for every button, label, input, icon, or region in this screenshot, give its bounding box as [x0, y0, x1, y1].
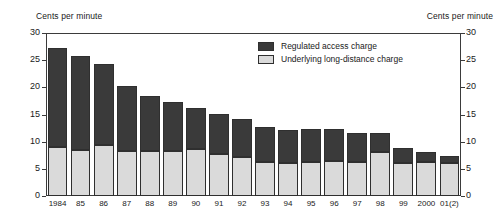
x-tick-label: 99 [392, 199, 415, 208]
y-tick-mark-right [461, 60, 465, 61]
x-tick-label: 94 [277, 199, 300, 208]
bar-group [163, 103, 183, 196]
legend-swatch-dark [258, 42, 274, 51]
y-tick-label-right: 15 [466, 109, 486, 119]
bar-segment-underlying-long-distance-charge [393, 163, 413, 196]
bar-segment-underlying-long-distance-charge [48, 147, 68, 196]
bar-segment-underlying-long-distance-charge [416, 162, 436, 196]
bar-segment-regulated-access-charge [48, 48, 68, 147]
bar-segment-underlying-long-distance-charge [209, 154, 229, 196]
left-axis-title: Cents per minute [36, 11, 102, 21]
x-tick-label: 97 [346, 199, 369, 208]
bar-group [71, 57, 91, 196]
bar-segment-regulated-access-charge [163, 102, 183, 151]
bar-segment-regulated-access-charge [440, 156, 460, 163]
y-tick-label-left: 30 [20, 27, 40, 37]
bar-segment-underlying-long-distance-charge [71, 150, 91, 196]
bar-segment-regulated-access-charge [393, 148, 413, 163]
x-tick-label: 91 [207, 199, 230, 208]
bar-segment-regulated-access-charge [347, 133, 367, 162]
x-tick-label: 86 [92, 199, 115, 208]
bar-group [347, 134, 367, 196]
y-tick-label-left: 0 [20, 190, 40, 200]
y-tick-mark-right [461, 196, 465, 197]
x-tick-label: 95 [300, 199, 323, 208]
bar-group [440, 157, 460, 196]
bar-segment-regulated-access-charge [370, 133, 390, 152]
bar-segment-regulated-access-charge [232, 119, 252, 157]
legend-label: Regulated access charge [281, 41, 377, 51]
bar-segment-underlying-long-distance-charge [255, 162, 275, 196]
bar-segment-underlying-long-distance-charge [370, 152, 390, 196]
bar-group [94, 65, 114, 196]
bar-group [48, 49, 68, 196]
bar-segment-underlying-long-distance-charge [232, 157, 252, 196]
legend-label: Underlying long-distance charge [281, 54, 403, 64]
y-tick-mark-right [461, 115, 465, 116]
bar-segment-underlying-long-distance-charge [301, 162, 321, 196]
y-tick-label-right: 5 [466, 163, 486, 173]
x-tick-label: 87 [115, 199, 138, 208]
bar-group [209, 115, 229, 197]
x-tick-label: 89 [161, 199, 184, 208]
right-axis-title: Cents per minute [427, 11, 493, 21]
x-tick-label: 2000 [415, 199, 438, 208]
bar-segment-underlying-long-distance-charge [186, 149, 206, 196]
x-tick-label: 85 [69, 199, 92, 208]
y-tick-mark-left [42, 196, 46, 197]
bar-segment-regulated-access-charge [301, 129, 321, 162]
bar-segment-regulated-access-charge [209, 114, 229, 154]
bar-segment-regulated-access-charge [140, 96, 160, 151]
bar-segment-underlying-long-distance-charge [440, 163, 460, 196]
bar-segment-underlying-long-distance-charge [117, 151, 137, 196]
bar-group [393, 149, 413, 196]
bar-segment-underlying-long-distance-charge [140, 151, 160, 196]
bar-segment-underlying-long-distance-charge [94, 145, 114, 196]
bar-segment-regulated-access-charge [416, 152, 436, 162]
bar-segment-underlying-long-distance-charge [324, 161, 344, 196]
bar-segment-regulated-access-charge [255, 127, 275, 162]
bar-segment-regulated-access-charge [186, 108, 206, 149]
bar-group [416, 153, 436, 196]
y-tick-label-left: 15 [20, 109, 40, 119]
x-tick-label: 96 [323, 199, 346, 208]
y-tick-mark-right [461, 33, 465, 34]
y-tick-label-left: 10 [20, 136, 40, 146]
bar-segment-regulated-access-charge [117, 86, 137, 151]
x-tick-label: 01(2) [438, 199, 461, 208]
legend-swatch-light [258, 55, 274, 64]
x-tick-label: 90 [184, 199, 207, 208]
bar-group [301, 130, 321, 196]
y-tick-label-right: 30 [466, 27, 486, 37]
bar-segment-regulated-access-charge [94, 64, 114, 145]
x-tick-label: 93 [254, 199, 277, 208]
stacked-bar-chart: Cents per minute Cents per minute 051015… [0, 0, 503, 219]
legend-item: Regulated access charge [258, 41, 403, 51]
bar-group [117, 87, 137, 196]
x-tick-label: 1984 [46, 199, 69, 208]
x-tick-label: 92 [230, 199, 253, 208]
bar-group [232, 120, 252, 196]
y-tick-mark-right [461, 142, 465, 143]
bar-segment-underlying-long-distance-charge [278, 163, 298, 196]
legend-item: Underlying long-distance charge [258, 54, 403, 64]
bar-group [324, 130, 344, 196]
y-tick-label-left: 5 [20, 163, 40, 173]
bar-segment-regulated-access-charge [278, 130, 298, 164]
bar-group [278, 131, 298, 196]
bar-group [255, 128, 275, 196]
y-tick-label-right: 20 [466, 81, 486, 91]
chart-legend: Regulated access chargeUnderlying long-d… [258, 41, 403, 67]
y-tick-label-left: 25 [20, 54, 40, 64]
y-tick-label-left: 20 [20, 81, 40, 91]
bar-group [186, 109, 206, 196]
y-tick-mark-right [461, 87, 465, 88]
bar-segment-regulated-access-charge [324, 129, 344, 161]
bar-group [140, 97, 160, 196]
bar-segment-underlying-long-distance-charge [347, 162, 367, 196]
y-tick-label-right: 10 [466, 136, 486, 146]
x-tick-label: 98 [369, 199, 392, 208]
bar-group [370, 134, 390, 196]
y-tick-mark-right [461, 169, 465, 170]
y-tick-label-right: 0 [466, 190, 486, 200]
